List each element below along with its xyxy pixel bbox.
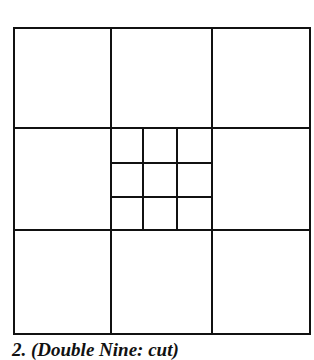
grid-vertical-1 — [110, 27, 112, 335]
outer-border-bottom — [13, 333, 311, 335]
outer-border-right — [309, 27, 311, 335]
subgrid-vertical-1 — [142, 127, 144, 231]
grid-horizontal-2 — [13, 229, 311, 231]
subgrid-horizontal-2 — [110, 196, 213, 198]
subgrid-vertical-2 — [176, 127, 178, 231]
grid-vertical-2 — [211, 27, 213, 335]
subgrid-horizontal-1 — [110, 162, 213, 164]
outer-border-top — [13, 27, 311, 29]
figure-caption: 2. (Double Nine: cut) — [12, 340, 179, 359]
outer-border-left — [13, 27, 15, 335]
grid-horizontal-1 — [13, 127, 311, 129]
